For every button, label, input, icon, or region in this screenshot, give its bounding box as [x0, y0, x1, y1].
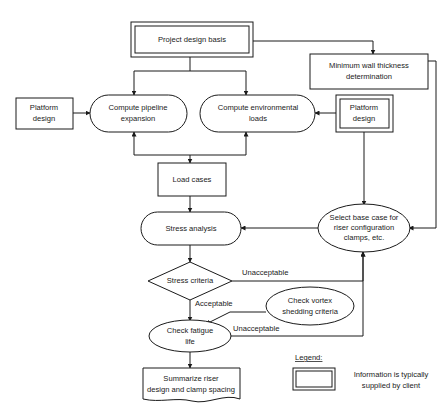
node-summarize-riser-design-label-line2: design and clamp spacing [147, 385, 235, 394]
node-stress-criteria[interactable]: Stress criteria [148, 262, 232, 300]
node-minimum-wall-thickness[interactable]: Minimum wall thickness determination [310, 54, 428, 89]
node-load-cases[interactable]: Load cases [158, 163, 226, 196]
node-select-base-case-label-line2: riser configuration [334, 223, 394, 232]
node-platform-design-left[interactable]: Platform design [16, 98, 73, 129]
node-compute-pipeline-expansion-label-line1: Compute pipeline [108, 103, 167, 112]
node-select-base-case-label-line1: Select base case for [330, 213, 399, 222]
node-stress-analysis[interactable]: Stress analysis [141, 212, 241, 245]
node-select-base-case[interactable]: Select base case for riser configuration… [318, 204, 410, 252]
node-check-vortex-shedding[interactable]: Check vortex shedding criteria [266, 287, 354, 325]
node-check-fatigue-life-label-line1: Check fatigue [167, 326, 213, 335]
legend-description-line1: Information is typically [354, 370, 429, 379]
node-project-design-basis[interactable]: Project design basis [131, 22, 253, 57]
flowchart-svg: Project design basis Minimum wall thickn… [0, 0, 444, 419]
legend-swatch-client-supplied [293, 368, 335, 390]
node-check-fatigue-life[interactable]: Check fatigue life [149, 320, 231, 352]
node-platform-design-left-label-line2: design [33, 114, 55, 123]
legend-description-line2: supplied by client [362, 381, 421, 390]
node-platform-design-right-label-line2: design [353, 114, 375, 123]
legend: Legend: Information is typically supplie… [293, 353, 429, 390]
node-load-cases-label: Load cases [173, 175, 212, 184]
node-check-vortex-shedding-label-line2: shedding criteria [282, 307, 338, 316]
node-check-vortex-shedding-label-line1: Check vortex [288, 296, 333, 305]
edge-label-stress-acceptable: Acceptable [195, 299, 233, 308]
node-compute-pipeline-expansion-label-line2: expansion [121, 114, 156, 123]
node-stress-criteria-label: Stress criteria [167, 276, 214, 285]
node-platform-design-right-label-line1: Platform [350, 103, 378, 112]
node-summarize-riser-design[interactable]: Summarize riser design and clamp spacing [143, 368, 240, 402]
node-compute-environmental-loads[interactable]: Compute environmental loads [200, 95, 315, 132]
node-project-design-basis-label: Project design basis [158, 35, 226, 44]
edge-pdb-to-minwall [253, 41, 373, 54]
node-platform-design-left-label-line1: Platform [30, 103, 58, 112]
node-summarize-riser-design-label-line1: Summarize riser [163, 374, 219, 383]
edge-vortex-to-fatigue [206, 312, 266, 324]
node-minimum-wall-thickness-label-line1: Minimum wall thickness [329, 61, 409, 70]
node-stress-analysis-label: Stress analysis [165, 224, 216, 233]
node-minimum-wall-thickness-label-line2: determination [346, 72, 392, 81]
node-select-base-case-label-line3: clamps, etc. [344, 233, 385, 242]
node-platform-design-right[interactable]: Platform design [336, 95, 393, 132]
edge-label-stress-unacceptable: Unacceptable [242, 268, 288, 277]
flowchart-canvas: Project design basis Minimum wall thickn… [0, 0, 444, 419]
node-check-fatigue-life-label-line2: life [185, 337, 195, 346]
node-compute-pipeline-expansion[interactable]: Compute pipeline expansion [90, 95, 187, 132]
connectors [73, 41, 436, 368]
node-compute-environmental-loads-label-line2: loads [249, 114, 267, 123]
node-compute-environmental-loads-label-line1: Compute environmental [218, 103, 299, 112]
legend-title: Legend: [295, 353, 322, 362]
edge-label-fatigue-unacceptable: Unacceptable [233, 324, 279, 333]
